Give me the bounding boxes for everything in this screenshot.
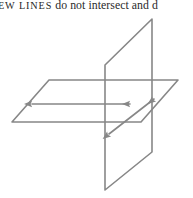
caption-small-caps: EW LINES bbox=[0, 0, 52, 11]
figure-container bbox=[0, 12, 193, 198]
figure-page: EW LINES do not intersect and d bbox=[0, 0, 193, 198]
caption-body: do not intersect and d bbox=[52, 0, 158, 12]
horizontal-plane bbox=[12, 80, 178, 122]
skew-lines-diagram bbox=[0, 12, 193, 198]
